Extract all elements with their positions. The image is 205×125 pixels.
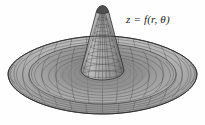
surface-figure: z = f(r, θ) xyxy=(0,0,205,125)
surface-plot-3d xyxy=(0,0,205,125)
surface-equation-label: z = f(r, θ) xyxy=(126,13,170,25)
peak-apex-cap xyxy=(96,6,108,14)
